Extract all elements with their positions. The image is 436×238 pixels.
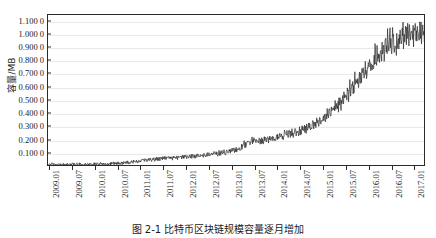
y-tick-mark: [47, 60, 51, 61]
y-tick-mark: [47, 113, 51, 114]
x-tick-label: 2012.01: [189, 170, 198, 198]
y-tick-label: 1.100 0: [19, 16, 45, 25]
figure-container: 容量/MB 1.100 01.000 00.900 00.800 00.700 …: [0, 0, 436, 238]
y-tick-label: 0.700 0: [19, 69, 45, 78]
x-tick-label: 2016.01: [372, 170, 381, 198]
x-tick-label: 2014.01: [280, 170, 289, 198]
x-tick-label: 2015.07: [349, 170, 358, 198]
x-tick-label: 2009.07: [75, 170, 84, 198]
x-tick-label: 2011.01: [143, 170, 152, 197]
y-tick-mark: [47, 139, 51, 140]
x-tick-label: 2010.07: [121, 170, 130, 198]
y-tick-label: 0.200 0: [19, 135, 45, 144]
x-tick-label: 2014.07: [303, 170, 312, 198]
y-tick-mark: [47, 99, 51, 100]
figure-caption: 图 2-1 比特币区块链规模容量逐月增加: [0, 224, 436, 238]
x-tick-label: 2012.07: [212, 170, 221, 198]
y-axis-tick-labels: 1.100 01.000 00.900 00.800 00.700 00.600…: [0, 0, 46, 175]
y-tick-label: 0.400 0: [19, 109, 45, 118]
x-tick-label: 2013.07: [258, 170, 267, 198]
x-tick-label: 2011.07: [166, 170, 175, 197]
y-tick-label: 0.800 0: [19, 56, 45, 65]
y-tick-label: 0.500 0: [19, 96, 45, 105]
y-tick-label: 0.300 0: [19, 122, 45, 131]
y-tick-mark: [47, 126, 51, 127]
x-tick-label: 2016.07: [395, 170, 404, 198]
x-tick-label: 2009.01: [52, 170, 61, 198]
y-tick-mark: [47, 73, 51, 74]
y-tick-mark: [47, 152, 51, 153]
y-tick-mark: [47, 86, 51, 87]
x-axis-tick-labels: 2009.012009.072010.012010.072011.012011.…: [0, 166, 436, 214]
x-tick-label: 2017.01: [417, 170, 426, 198]
y-tick-mark: [47, 33, 51, 34]
data-series-line: [48, 15, 424, 165]
x-tick-label: 2013.01: [235, 170, 244, 198]
y-tick-mark: [47, 20, 51, 21]
plot-area: [47, 14, 425, 166]
x-tick-label: 2010.01: [98, 170, 107, 198]
y-tick-label: 1.000 0: [19, 30, 45, 39]
y-tick-label: 0.600 0: [19, 82, 45, 91]
x-tick-label: 2015.01: [326, 170, 335, 198]
y-tick-mark: [47, 47, 51, 48]
series-path: [48, 22, 424, 165]
y-tick-label: 0.900 0: [19, 43, 45, 52]
y-tick-label: 0.100 0: [19, 149, 45, 158]
